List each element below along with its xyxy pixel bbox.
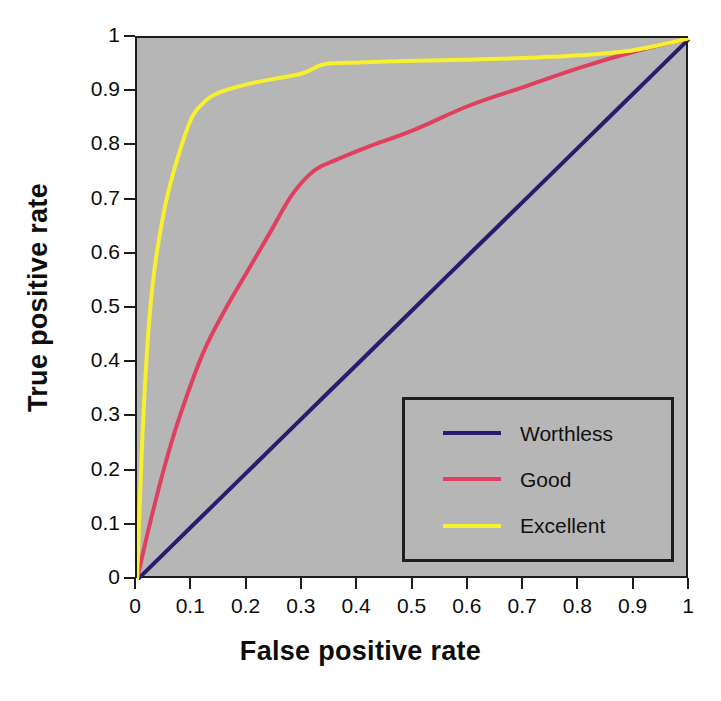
x-tick-label-0.5: 0.5 xyxy=(382,594,442,618)
y-tick-label-0.4: 0.4 xyxy=(62,348,120,372)
x-tick-0.7 xyxy=(521,578,523,589)
legend-swatch-excellent xyxy=(443,524,501,528)
y-tick-0.7 xyxy=(124,198,135,200)
x-tick-0.6 xyxy=(466,578,468,589)
x-tick-1 xyxy=(687,578,689,589)
y-tick-label-0.9: 0.9 xyxy=(62,77,120,101)
x-tick-0 xyxy=(134,578,136,589)
y-tick-0 xyxy=(124,577,135,579)
legend-item-worthless: Worthless xyxy=(405,416,671,450)
y-tick-0.1 xyxy=(124,523,135,525)
y-tick-0.3 xyxy=(124,414,135,416)
x-tick-label-0.3: 0.3 xyxy=(271,594,331,618)
x-tick-label-0.1: 0.1 xyxy=(160,594,220,618)
y-tick-label-1: 1 xyxy=(62,23,120,47)
x-tick-label-0.4: 0.4 xyxy=(326,594,386,618)
y-tick-label-0.3: 0.3 xyxy=(62,402,120,426)
x-tick-0.5 xyxy=(411,578,413,589)
x-tick-0.3 xyxy=(300,578,302,589)
x-tick-label-0: 0 xyxy=(105,594,165,618)
legend-label-good: Good xyxy=(520,469,571,490)
y-tick-0.5 xyxy=(124,306,135,308)
y-tick-0.6 xyxy=(124,252,135,254)
x-tick-label-0.9: 0.9 xyxy=(603,594,663,618)
y-tick-label-0.7: 0.7 xyxy=(62,186,120,210)
legend-swatch-worthless xyxy=(443,431,501,435)
y-tick-0.8 xyxy=(124,143,135,145)
roc-chart-figure: 00.10.20.30.40.50.60.70.80.91 00.10.20.3… xyxy=(0,0,721,701)
y-tick-0.2 xyxy=(124,469,135,471)
y-tick-label-0: 0 xyxy=(62,565,120,589)
y-tick-label-0.8: 0.8 xyxy=(62,131,120,155)
legend-swatch-good xyxy=(443,477,501,481)
x-tick-label-0.8: 0.8 xyxy=(547,594,607,618)
legend-item-excellent: Excellent xyxy=(405,509,671,543)
legend-label-excellent: Excellent xyxy=(520,515,605,536)
y-tick-label-0.1: 0.1 xyxy=(62,511,120,535)
y-tick-1 xyxy=(124,35,135,37)
y-tick-label-0.2: 0.2 xyxy=(62,457,120,481)
legend-label-worthless: Worthless xyxy=(520,423,613,444)
y-tick-0.9 xyxy=(124,89,135,91)
x-tick-0.9 xyxy=(632,578,634,589)
x-tick-0.8 xyxy=(576,578,578,589)
x-tick-label-0.7: 0.7 xyxy=(492,594,552,618)
y-tick-label-0.6: 0.6 xyxy=(62,240,120,264)
chart-legend: Worthless Good Excellent xyxy=(402,397,674,562)
x-tick-label-0.6: 0.6 xyxy=(437,594,497,618)
y-tick-0.4 xyxy=(124,360,135,362)
legend-item-good: Good xyxy=(405,462,671,496)
y-axis-title: True positive rate xyxy=(23,168,54,428)
x-axis-title: False positive rate xyxy=(0,636,721,667)
x-tick-label-0.2: 0.2 xyxy=(216,594,276,618)
x-tick-0.4 xyxy=(355,578,357,589)
y-tick-label-0.5: 0.5 xyxy=(62,294,120,318)
x-tick-0.1 xyxy=(189,578,191,589)
x-tick-0.2 xyxy=(245,578,247,589)
x-tick-label-1: 1 xyxy=(658,594,718,618)
